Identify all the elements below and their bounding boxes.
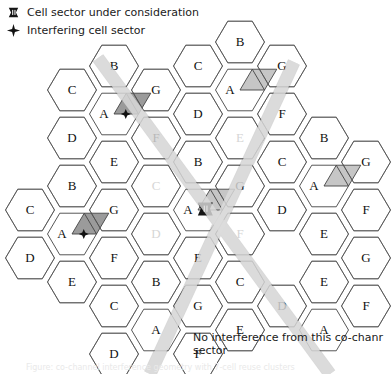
cell-label: G <box>193 298 202 313</box>
figure-canvas: Cell sector under consideration Interfer… <box>0 0 391 374</box>
cell-label: B <box>152 274 161 289</box>
cell-label: D <box>109 346 118 361</box>
cell-label: A <box>309 178 319 193</box>
cell-label: G <box>361 154 370 169</box>
cell-label: C <box>194 58 203 73</box>
cell-label: C <box>68 82 77 97</box>
cell-label: D <box>67 130 76 145</box>
cell-label: E <box>110 154 118 169</box>
cell-label: D <box>25 250 34 265</box>
cell-label: A <box>225 82 235 97</box>
cell-label: E <box>68 274 76 289</box>
cell-label: G <box>109 202 118 217</box>
cell-label: A <box>57 226 67 241</box>
figure-footnote: Figure: co-channel interference geometry… <box>26 363 376 372</box>
hex-grid: BCGADFEBCGADFEBCGADFEBCGADFEBCGADFEBCGAD… <box>0 0 391 374</box>
cell-label: D <box>151 226 160 241</box>
cell-label: C <box>236 274 245 289</box>
cell-label: F <box>110 250 117 265</box>
cell-label: E <box>236 130 244 145</box>
caption-line-2: sector <box>193 344 391 357</box>
cell-label: A <box>99 106 109 121</box>
caption-line-1: No interference from this co-chanr <box>193 331 383 344</box>
cell-label: B <box>194 154 203 169</box>
cell-label: E <box>320 226 328 241</box>
cell-label: F <box>362 202 369 217</box>
cell-label: C <box>152 178 161 193</box>
cell-label: B <box>320 130 329 145</box>
cell-label: C <box>26 202 35 217</box>
cell-label: F <box>362 298 369 313</box>
cell-label: G <box>361 250 370 265</box>
cell-label: D <box>193 106 202 121</box>
cell-label: A <box>151 322 161 337</box>
cell-label: A <box>183 202 193 217</box>
cell-label: C <box>278 154 287 169</box>
cell-label: E <box>320 274 328 289</box>
cell-label: B <box>68 178 77 193</box>
cell-label: G <box>151 82 160 97</box>
cell-label: D <box>277 202 286 217</box>
no-interference-caption: No interference from this co-chanr secto… <box>193 331 391 357</box>
cell-label: F <box>278 106 285 121</box>
interference-band <box>98 58 330 374</box>
cell-label: C <box>110 298 119 313</box>
interference-band-overlay <box>98 58 330 374</box>
cell-label: B <box>236 34 245 49</box>
